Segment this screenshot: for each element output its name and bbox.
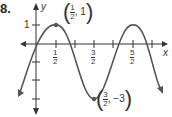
y-axis-up-arrow-icon: [33, 3, 39, 10]
max-point-label: ( 12 , 1 ): [63, 1, 93, 23]
problem-number: 8.: [0, 2, 11, 15]
min-point-label: ( 32 , −3 ): [96, 88, 132, 110]
y-axis-down-arrow-icon: [33, 108, 39, 115]
max-point: [54, 23, 58, 27]
curve-right-arrow-icon: [157, 86, 163, 94]
x-tick-label-three-halves: 32: [91, 49, 95, 66]
sinusoid-curve: [20, 25, 160, 99]
x-axis-left-arrow-icon: [20, 41, 26, 47]
x-tick-label-five-halves: 52: [130, 49, 134, 66]
y-tick-label: 1: [24, 20, 30, 30]
y-axis-label: y: [41, 2, 46, 12]
x-tick-label-half: 12: [53, 49, 57, 66]
x-axis-label: x: [163, 48, 168, 58]
